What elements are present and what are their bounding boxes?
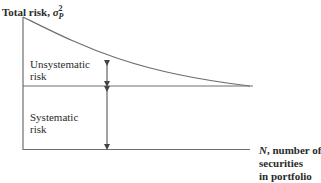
- unsystematic-line1: Unsystematic: [30, 58, 90, 70]
- x-label-line3: in portfolio: [259, 170, 321, 183]
- y-axis-title: Total risk, σP2: [2, 3, 62, 23]
- title-subscript: P: [59, 12, 64, 21]
- systematic-line2: risk: [30, 123, 78, 135]
- title-text: Total risk,: [2, 6, 53, 18]
- x-label-line2: securities: [259, 157, 321, 170]
- title-superscript: 2: [58, 4, 62, 13]
- unsystematic-risk-label: Unsystematic risk: [30, 58, 90, 82]
- unsystematic-line2: risk: [30, 70, 90, 82]
- x-axis-label: N, number of securities in portfolio: [259, 144, 321, 183]
- systematic-risk-label: Systematic risk: [30, 111, 78, 135]
- systematic-line1: Systematic: [30, 111, 78, 123]
- n-variable: N: [259, 144, 267, 156]
- x-label-line1: , number of: [267, 144, 321, 156]
